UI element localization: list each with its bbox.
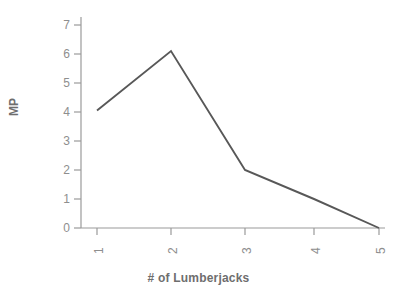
x-tick-label-4: 4 [310, 247, 322, 254]
y-tick-label-6: 6 [52, 48, 70, 60]
x-axis-ticks [97, 228, 379, 235]
marginal-product-line-chart: 0 1 2 3 4 5 6 7 1 2 3 4 5 MP # of Lumber… [0, 0, 397, 299]
axis-group [81, 17, 385, 228]
y-tick-label-2: 2 [52, 164, 70, 176]
x-axis-title: # of Lumberjacks [0, 272, 397, 284]
y-tick-label-5: 5 [52, 77, 70, 89]
x-tick-label-5: 5 [375, 247, 387, 254]
y-tick-label-0: 0 [52, 222, 70, 234]
y-tick-label-1: 1 [52, 193, 70, 205]
y-axis-ticks [74, 25, 81, 228]
data-series-line [97, 51, 379, 228]
x-tick-label-1: 1 [93, 247, 105, 254]
chart-canvas [0, 0, 397, 299]
y-tick-label-3: 3 [52, 135, 70, 147]
y-axis-title: MP [8, 98, 20, 116]
x-tick-label-2: 2 [167, 247, 179, 254]
y-tick-label-4: 4 [52, 106, 70, 118]
y-tick-label-7: 7 [52, 19, 70, 31]
x-tick-label-3: 3 [241, 247, 253, 254]
